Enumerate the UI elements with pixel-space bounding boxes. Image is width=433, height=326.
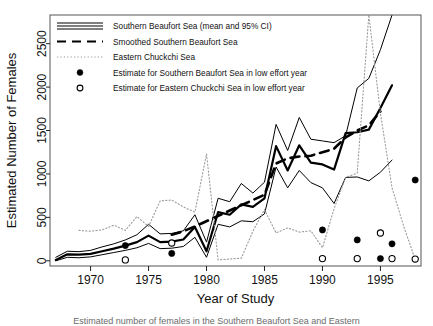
legend: Southern Beaufort Sea (mean and 95% CI)S…: [57, 21, 307, 93]
legend-label: Estimate for Eastern Chuckchi Sea in low…: [113, 83, 305, 93]
figure-caption: Estimated number of females in the South…: [0, 316, 433, 326]
series-line: [56, 15, 392, 257]
x-tick-label: 1970: [77, 273, 104, 287]
legend-key-open-circle: [77, 85, 83, 91]
point-sbs-low-effort: [412, 177, 418, 183]
legend-key-filled-circle: [77, 70, 83, 76]
legend-label: Smoothed Southern Beaufort Sea: [113, 37, 238, 47]
series-line: [56, 85, 392, 260]
x-tick-label: 1985: [251, 273, 278, 287]
legend-label: Southern Beaufort Sea (mean and 95% CI): [113, 21, 272, 31]
point-sbs-low-effort: [122, 242, 128, 248]
point-sbs-low-effort: [354, 237, 360, 243]
x-tick-label: 1980: [193, 273, 220, 287]
y-tick-label: 1500: [35, 117, 49, 144]
y-tick-label: 2000: [35, 73, 49, 100]
point-ecs-low-effort: [412, 256, 418, 262]
plot-area: [56, 15, 419, 263]
legend-label: Estimate for Southern Beaufort Sea in lo…: [113, 68, 307, 78]
legend-label: Eastern Chuckchi Sea: [113, 52, 195, 62]
point-ecs-low-effort: [319, 256, 325, 262]
point-sbs-low-effort: [377, 256, 383, 262]
x-tick-label: 1975: [135, 273, 162, 287]
y-tick-label: 0: [35, 257, 49, 264]
point-sbs-low-effort: [319, 227, 325, 233]
point-sbs-low-effort: [169, 250, 175, 256]
y-axis-title: Estimated Number of Females: [4, 52, 19, 228]
point-ecs-low-effort: [122, 257, 128, 263]
y-tick-label: 1000: [35, 160, 49, 187]
point-ecs-low-effort: [169, 240, 175, 246]
x-axis-title: Year of Study: [197, 291, 275, 306]
x-tick-label: 1990: [309, 273, 336, 287]
point-ecs-low-effort: [377, 230, 383, 236]
x-tick-label: 1995: [367, 273, 394, 287]
y-tick-label: 500: [35, 207, 49, 227]
point-sbs-low-effort: [389, 241, 395, 247]
point-ecs-low-effort: [354, 256, 360, 262]
y-tick-label: 2500: [35, 30, 49, 57]
point-ecs-low-effort: [389, 256, 395, 262]
